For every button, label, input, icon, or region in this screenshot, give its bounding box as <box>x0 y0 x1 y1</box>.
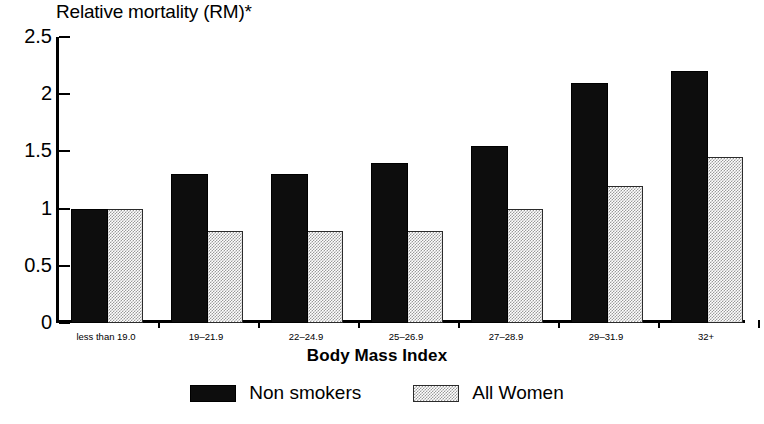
bar-all-women <box>506 209 543 323</box>
bar-all-women <box>106 209 143 323</box>
legend-label: Non smokers <box>249 382 361 404</box>
y-axis-tick <box>59 93 70 95</box>
y-axis-tick <box>59 265 70 267</box>
bar-all-women <box>206 231 243 323</box>
x-axis-tick <box>458 320 460 328</box>
y-axis-tick <box>59 150 70 152</box>
y-axis-tick <box>59 36 70 38</box>
bar-non-smokers <box>571 83 608 323</box>
x-axis-tick <box>658 320 660 328</box>
x-axis-tick <box>558 320 560 328</box>
chart-legend: Non smokersAll Women <box>0 378 754 408</box>
bar-non-smokers <box>371 163 408 323</box>
y-axis-tick-label: 0 <box>6 312 52 332</box>
bar-non-smokers <box>671 71 708 323</box>
y-axis-tick-label: 2.5 <box>6 26 52 46</box>
y-axis-tick <box>59 322 70 324</box>
legend-swatch-all-women <box>413 385 459 402</box>
y-axis-tick-label: 2 <box>6 83 52 103</box>
plot-area <box>56 37 745 323</box>
bar-all-women <box>306 231 343 323</box>
legend-swatch-non-smokers <box>190 385 236 402</box>
x-axis-tick <box>358 320 360 328</box>
bar-non-smokers <box>171 174 208 323</box>
bar-all-women <box>606 186 643 323</box>
bar-all-women <box>706 157 743 323</box>
x-axis-tick <box>258 320 260 328</box>
y-axis-tick-label: 1.5 <box>6 140 52 160</box>
legend-label: All Women <box>472 382 564 404</box>
legend-item[interactable]: Non smokers <box>190 382 361 404</box>
x-axis-category-label: 32+ <box>646 331 764 342</box>
bar-non-smokers <box>271 174 308 323</box>
y-axis-tick <box>59 208 70 210</box>
bar-non-smokers <box>471 146 508 323</box>
x-axis-tick <box>758 320 760 328</box>
y-axis-tick-label: 0.5 <box>6 255 52 275</box>
x-axis-tick <box>158 320 160 328</box>
x-axis-title: Body Mass Index <box>0 346 754 366</box>
legend-item[interactable]: All Women <box>413 382 564 404</box>
bar-all-women <box>406 231 443 323</box>
y-axis-tick-label: 1 <box>6 198 52 218</box>
bar-non-smokers <box>71 209 108 323</box>
y-axis-title: Relative mortality (RM)* <box>56 1 252 23</box>
